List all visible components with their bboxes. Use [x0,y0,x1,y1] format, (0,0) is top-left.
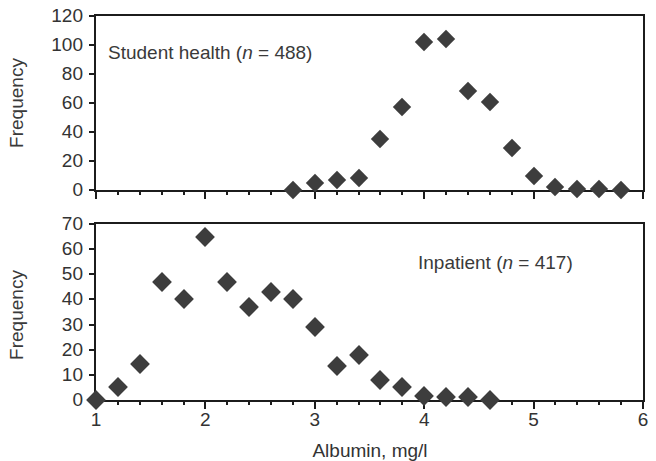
y-tick-mark [89,73,96,75]
annotation-prefix: Student health ( [108,42,242,63]
data-point-marker [371,370,391,390]
data-point-marker [327,356,347,376]
x-axis-title: Albumin, mg/l [312,440,427,461]
y-tick-mark [89,324,96,326]
data-point-marker [305,317,325,337]
x-tick-mark-minor [292,400,294,405]
x-tick-mark-minor [467,190,469,195]
x-tick-mark-minor [183,190,185,195]
annotation-symbol-n: n [503,252,514,273]
annotation-prefix: Inpatient ( [418,252,503,273]
data-point-marker [217,272,237,292]
figure-root: Frequency Student health (n = 488) Frequ… [0,0,656,461]
x-tick-mark-minor [598,400,600,405]
data-point-marker [349,345,369,365]
data-point-marker [612,181,630,199]
annotation-student-health: Student health (n = 488) [108,42,312,64]
x-tick-mark-minor [379,190,381,195]
y-tick-label: 80 [62,63,83,85]
x-tick-mark-minor [117,400,119,405]
x-tick-mark-major [423,190,425,199]
y-tick-mark [89,160,96,162]
annotation-suffix: = 488) [253,42,313,63]
data-point-marker [261,282,281,302]
data-point-marker [415,33,433,51]
annotation-inpatient: Inpatient (n = 417) [418,252,573,274]
y-tick-label: 50 [62,263,83,285]
data-point-marker [568,179,586,197]
plot-area-inpatient [96,224,643,400]
data-point-marker [195,227,215,247]
x-tick-label: 5 [528,409,539,431]
x-tick-mark-minor [226,190,228,195]
x-tick-mark-minor [139,400,141,405]
data-point-marker [458,388,478,408]
x-tick-mark-minor [139,190,141,195]
y-axis-title-bottom: Frequency [6,260,28,370]
y-tick-mark [89,102,96,104]
y-tick-label: 20 [62,339,83,361]
x-tick-mark-major [642,190,644,199]
x-tick-mark-minor [511,190,513,195]
y-tick-label: 60 [62,238,83,260]
data-point-marker [174,290,194,310]
x-tick-mark-minor [489,190,491,195]
data-point-marker [239,297,259,317]
x-tick-label: 1 [91,409,102,431]
y-tick-mark [89,349,96,351]
y-tick-mark [89,248,96,250]
data-point-marker [306,174,324,192]
x-tick-mark-minor [620,400,622,405]
y-tick-mark [89,273,96,275]
y-tick-label: 40 [62,288,83,310]
y-tick-mark [89,15,96,17]
y-tick-label: 20 [62,150,83,172]
y-tick-label: 0 [72,179,83,201]
x-tick-mark-minor [554,400,556,405]
x-tick-mark-minor [511,400,513,405]
x-tick-mark-major [204,400,206,409]
x-tick-mark-minor [358,190,360,195]
y-tick-label: 60 [62,92,83,114]
y-tick-label: 120 [51,5,83,27]
data-point-marker [108,378,128,398]
y-tick-label: 10 [62,364,83,386]
data-point-marker [546,178,564,196]
data-point-marker [392,378,412,398]
y-tick-mark [89,44,96,46]
data-point-marker [152,272,172,292]
x-tick-mark-minor [336,190,338,195]
x-tick-mark-minor [270,190,272,195]
y-tick-label: 70 [62,213,83,235]
data-point-marker [480,390,500,410]
data-point-marker [327,171,345,189]
x-tick-mark-minor [161,400,163,405]
data-point-marker [86,390,106,410]
chart-panel-inpatient: Inpatient (n = 417) [94,222,645,402]
x-tick-mark-major [204,190,206,199]
x-tick-label: 3 [310,409,321,431]
annotation-suffix: = 417) [513,252,573,273]
data-point-marker [284,181,302,199]
y-tick-mark [89,298,96,300]
x-tick-mark-minor [358,400,360,405]
annotation-symbol-n: n [242,42,253,63]
x-tick-mark-major [314,400,316,409]
x-tick-mark-minor [161,190,163,195]
x-tick-mark-minor [401,400,403,405]
chart-panel-student-health: Student health (n = 488) [94,14,645,192]
data-point-marker [349,169,367,187]
data-point-marker [436,388,456,408]
data-point-marker [371,130,389,148]
x-tick-mark-major [533,400,535,409]
y-tick-label: 0 [72,389,83,411]
x-tick-mark-minor [117,190,119,195]
data-point-marker [503,139,521,157]
x-tick-mark-minor [248,190,250,195]
data-point-marker [437,30,455,48]
data-point-marker [481,92,499,110]
x-tick-mark-minor [445,190,447,195]
y-tick-mark [89,374,96,376]
y-tick-mark [89,131,96,133]
x-tick-mark-minor [183,400,185,405]
